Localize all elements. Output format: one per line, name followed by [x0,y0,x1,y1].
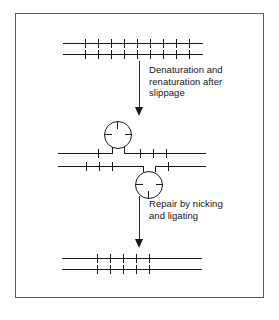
lower-loop-tick-right [156,184,163,185]
middle-duplex-top-strand-left [58,153,113,154]
bottom-duplex-top-strand [62,258,202,259]
figure-border: Denaturation and renaturation after slip… [15,13,264,298]
bottom-duplex-bottom-strand [62,269,202,270]
upper-loop-tick-top [117,122,118,129]
middle-duplex-top-strand-right [124,153,206,154]
upper-loop-tick-right [125,134,132,135]
bottom-duplex [16,14,263,74]
lower-loop-tick-left [136,184,143,185]
middle-duplex-bottom-strand-left [58,166,143,167]
lower-loop-tick-bottom [148,191,149,198]
middle-duplex-bottom-strand-right [155,166,206,167]
figure-root: Denaturation and renaturation after slip… [0,0,279,320]
arrow-head-icon [135,239,143,248]
lower-loop-neck-right [155,166,156,172]
upper-loop-tick-left [105,134,112,135]
repair-caption: Repair by nicking and ligating [149,198,254,221]
